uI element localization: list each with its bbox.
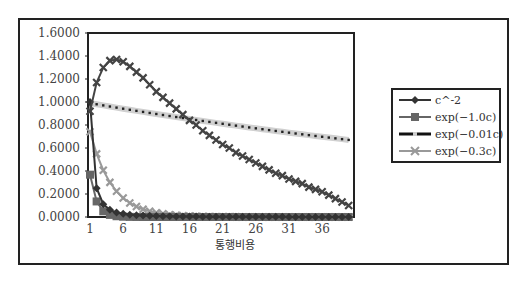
y-axis-ticks: 0.00000.20000.40000.60000.80001.00001.20…	[38, 26, 88, 224]
y-tick-label: 0.4000	[38, 164, 80, 178]
legend-item-exp-1: exp(−1.0c)	[399, 109, 496, 125]
legend-item-c-inv-sq: c^-2	[399, 92, 461, 108]
legend-item-exp-001: exp(−0.01c)	[399, 126, 503, 142]
y-tick-label: 0.6000	[38, 141, 80, 155]
x-axis-label: 통행비용	[190, 236, 280, 252]
x-tick-label: 26	[248, 222, 263, 236]
x-tick-label: 6	[119, 222, 127, 236]
y-tick-label: 1.6000	[38, 26, 80, 40]
square-marker-icon	[399, 111, 431, 123]
x-axis-ticks: 16111621263136	[86, 222, 330, 236]
y-tick-label: 0.2000	[38, 187, 80, 201]
legend-label: exp(−0.3c)	[435, 145, 496, 158]
y-tick-label: 0.8000	[38, 118, 80, 132]
x-tick-label: 11	[149, 222, 164, 236]
legend-label: exp(−1.0c)	[435, 111, 496, 124]
y-tick-label: 1.2000	[38, 72, 80, 86]
x-tick-label: 36	[315, 222, 330, 236]
diamond-marker-icon	[399, 94, 431, 106]
y-tick-label: 0.0000	[38, 210, 80, 224]
legend-item-exp-03: exp(−0.3c)	[399, 143, 496, 159]
legend: c^-2 exp(−1.0c) exp(−0.01c) exp(−0.3c)	[391, 88, 501, 163]
series-4	[87, 56, 353, 209]
x-tick-label: 16	[182, 222, 197, 236]
legend-label: c^-2	[435, 94, 461, 107]
dot-marker-icon	[399, 128, 431, 140]
x-tick-label: 21	[215, 222, 230, 236]
series-2	[89, 102, 350, 141]
x-tick-label: 1	[86, 222, 94, 236]
x-tick-label: 31	[281, 222, 296, 236]
legend-label: exp(−0.01c)	[435, 128, 503, 141]
series-layer	[86, 56, 353, 221]
series-0	[86, 98, 353, 221]
x-marker-icon	[399, 145, 431, 157]
y-tick-label: 1.0000	[38, 95, 80, 109]
y-tick-label: 1.4000	[38, 49, 80, 63]
